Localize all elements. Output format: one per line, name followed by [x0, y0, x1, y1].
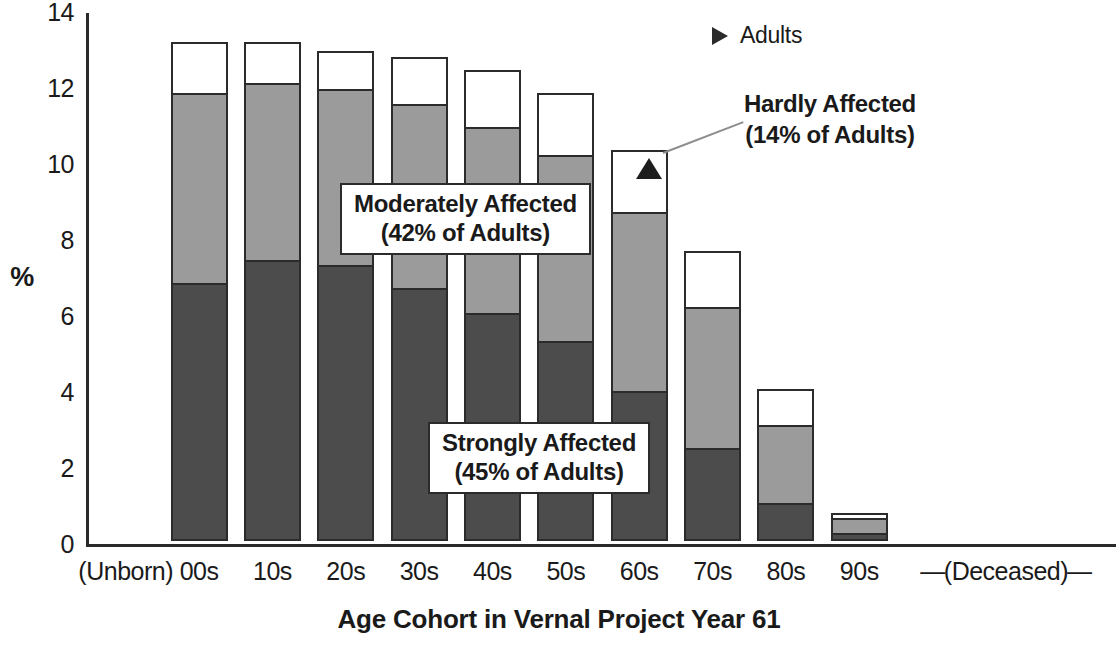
right-triangle-icon [712, 27, 728, 45]
bar-segment-strongly-affected [317, 265, 374, 541]
annotation-strongly-affected: Strongly Affected (45% of Adults) [428, 422, 650, 494]
bar-segment-hardly-affected [244, 42, 301, 86]
annotation-moderately-line1: Moderately Affected [354, 189, 577, 218]
annotation-hardly-line2: (14% of Adults) [700, 119, 960, 150]
annotation-moderately-line2: (42% of Adults) [354, 218, 577, 247]
adults-marker-icon [636, 158, 662, 179]
bar-80s [757, 389, 814, 545]
bar-70s [684, 251, 741, 546]
bar-10s [244, 42, 301, 546]
bar-segment-strongly-affected [831, 533, 888, 541]
bar-segment-moderately-affected [684, 307, 741, 450]
bar-segment-hardly-affected [171, 42, 228, 95]
bar-segment-strongly-affected [684, 448, 741, 541]
bar-segment-hardly-affected [391, 57, 448, 106]
legend: Adults [712, 22, 802, 49]
annotation-strongly-line1: Strongly Affected [442, 428, 636, 457]
bar-segment-hardly-affected [464, 70, 521, 129]
bar-segment-moderately-affected [171, 93, 228, 285]
bar-segment-strongly-affected [244, 260, 301, 541]
bar-segment-moderately-affected [244, 83, 301, 262]
bar-segment-strongly-affected [171, 283, 228, 541]
bar-segment-strongly-affected [391, 288, 448, 541]
annotation-strongly-line2: (45% of Adults) [442, 457, 636, 486]
bar-segment-moderately-affected [611, 212, 668, 393]
bar-segment-hardly-affected [757, 389, 814, 427]
chart-figure: % 02468101214 (Unborn)00s10s20s30s40s50s… [0, 0, 1118, 645]
bar-segment-strongly-affected [757, 503, 814, 541]
annotation-moderately-affected: Moderately Affected (42% of Adults) [340, 183, 591, 255]
annotation-hardly-line1: Hardly Affected [700, 88, 960, 119]
bar-90s [831, 513, 888, 545]
bar-segment-hardly-affected [537, 93, 594, 158]
bar-00s [171, 42, 228, 546]
annotation-hardly-affected: Hardly Affected (14% of Adults) [700, 88, 960, 150]
bar-segment-moderately-affected [757, 425, 814, 505]
legend-label-adults: Adults [740, 22, 802, 49]
bar-20s [317, 51, 374, 545]
x-axis-title: Age Cohort in Vernal Project Year 61 [0, 604, 1118, 635]
bar-segment-hardly-affected [684, 251, 741, 310]
x-tick-label: — [989, 558, 1118, 584]
bar-segment-hardly-affected [317, 51, 374, 91]
